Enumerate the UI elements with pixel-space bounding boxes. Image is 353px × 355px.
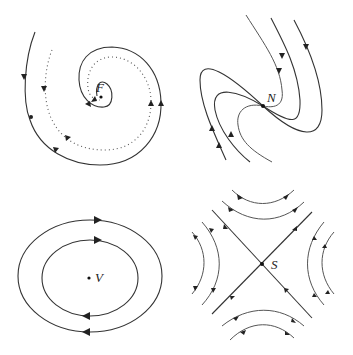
arrow-icon <box>209 125 215 131</box>
focus-inner-trajectory <box>45 50 151 150</box>
arrow-icon <box>279 53 285 59</box>
arrow-icon <box>41 86 47 92</box>
vortex-panel: V <box>18 216 162 336</box>
arrow-icon <box>91 96 97 102</box>
arrow-icon <box>21 74 27 80</box>
arrow-icon <box>237 194 243 200</box>
arrow-icon <box>283 194 289 200</box>
focus-outer-trajectory <box>25 32 161 165</box>
equilibrium-point <box>260 262 264 266</box>
focus-label: F <box>95 80 105 95</box>
arrow-icon <box>82 312 90 320</box>
phase-portrait-figure: F N V <box>0 0 353 355</box>
arrow-icon <box>94 216 102 224</box>
saddle-label: S <box>271 257 278 272</box>
saddle-trajectory <box>230 325 294 340</box>
node-trajectory <box>214 18 300 162</box>
equilibrium-point <box>99 95 102 98</box>
focus-panel: F <box>21 32 164 165</box>
arrow-icon <box>216 142 222 148</box>
arrow-icon <box>276 68 282 74</box>
arrow-icon <box>65 135 71 141</box>
equilibrium-point <box>261 104 265 108</box>
arrow-icon <box>292 207 298 213</box>
node-panel: N <box>200 15 322 162</box>
arrow-icon <box>325 290 330 294</box>
arrow-icon <box>94 236 102 244</box>
vortex-label: V <box>95 270 105 285</box>
arrow-icon <box>158 100 164 106</box>
saddle-trajectory <box>202 222 219 305</box>
saddle-panel: S <box>192 190 334 340</box>
arrow-icon <box>148 100 154 106</box>
saddle-trajectory <box>192 232 204 294</box>
arrow-icon <box>230 296 235 300</box>
equilibrium-point <box>87 276 90 279</box>
node-label: N <box>266 90 277 105</box>
arrow-icon <box>228 131 234 137</box>
arrow-icon <box>292 226 297 231</box>
arrow-icon <box>29 115 33 119</box>
node-trajectory <box>238 15 283 162</box>
node-trajectory <box>200 20 322 160</box>
saddle-trajectory <box>322 232 334 294</box>
arrow-icon <box>82 328 90 336</box>
